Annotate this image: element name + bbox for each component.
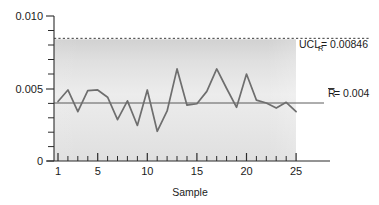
- x-axis-title: Sample: [172, 186, 208, 198]
- x-tick-label-1: 1: [55, 165, 61, 177]
- y-tick-label-2: 0: [37, 155, 43, 167]
- x-tick-label-25: 25: [290, 165, 302, 177]
- chart-canvas: 0.010 0.005 0: [0, 0, 379, 205]
- ucl-label-value: = 0.00846: [321, 38, 368, 50]
- x-tick-label-10: 10: [141, 165, 153, 177]
- y-tick-label-1: 0.005: [15, 83, 43, 95]
- rbar-label-value: = 0.004: [334, 87, 369, 99]
- x-tick-label-20: 20: [240, 165, 252, 177]
- y-tick-label-0: 0.010: [15, 10, 43, 22]
- x-tick-label-5: 5: [95, 165, 101, 177]
- x-tick-label-15: 15: [191, 165, 203, 177]
- r-control-chart: 0.010 0.005 0: [0, 0, 379, 205]
- plot-shaded-band-highlight: [54, 39, 296, 161]
- rbar-annotation: R = 0.004: [328, 87, 369, 99]
- ucl-annotation: UCL R = 0.00846: [299, 38, 368, 53]
- ucl-label-main: UCL: [299, 38, 320, 50]
- y-major-ticks: [46, 16, 54, 161]
